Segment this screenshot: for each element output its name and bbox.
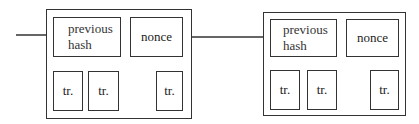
- nonce-label: nonce: [357, 30, 388, 46]
- transaction-label: tr.: [63, 83, 73, 99]
- block-2-transaction-n: tr.: [370, 70, 399, 110]
- block-1-previous-hash-box: previous hash: [53, 17, 121, 57]
- block-1-transaction-1: tr.: [53, 71, 83, 111]
- previous-hash-label-line2: hash: [283, 38, 307, 53]
- transaction-label: tr.: [280, 82, 290, 98]
- block-2-transaction-2: tr.: [307, 70, 337, 110]
- block-2-nonce-box: nonce: [346, 19, 399, 57]
- transaction-label: tr.: [379, 82, 389, 98]
- transaction-label: tr.: [164, 83, 174, 99]
- block-2-transaction-1: tr.: [270, 70, 300, 110]
- block-1-nonce-box: nonce: [130, 17, 183, 57]
- block-1-transaction-n: tr.: [156, 71, 183, 111]
- block-1-transaction-2: tr.: [88, 71, 119, 111]
- nonce-label: nonce: [141, 29, 172, 45]
- previous-hash-label-line2: hash: [68, 37, 92, 52]
- previous-hash-label-line1: previous: [68, 21, 113, 36]
- transaction-label: tr.: [98, 83, 108, 99]
- previous-hash-label-line1: previous: [283, 22, 328, 37]
- transaction-label: tr.: [317, 82, 327, 98]
- block-2-previous-hash-box: previous hash: [270, 19, 337, 57]
